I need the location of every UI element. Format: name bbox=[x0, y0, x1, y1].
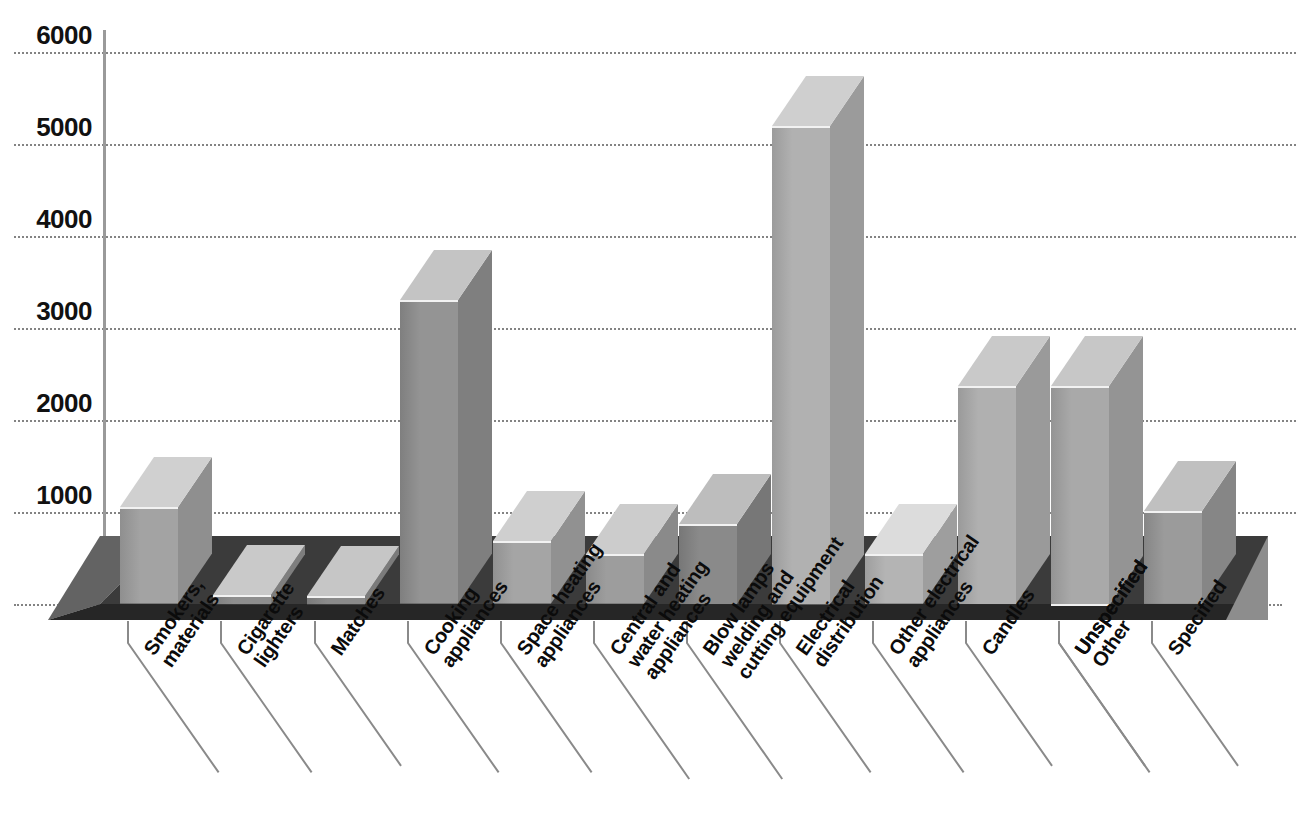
bar-side-face bbox=[830, 76, 864, 604]
bar-4[interactable] bbox=[398, 248, 494, 608]
bar-front-face bbox=[1051, 386, 1109, 604]
bar-side-face bbox=[458, 250, 492, 604]
bar-front-face bbox=[400, 300, 458, 604]
bar-chart: 0100020003000400050006000 Smokers,materi… bbox=[0, 0, 1296, 830]
bar-front-face bbox=[120, 507, 178, 604]
